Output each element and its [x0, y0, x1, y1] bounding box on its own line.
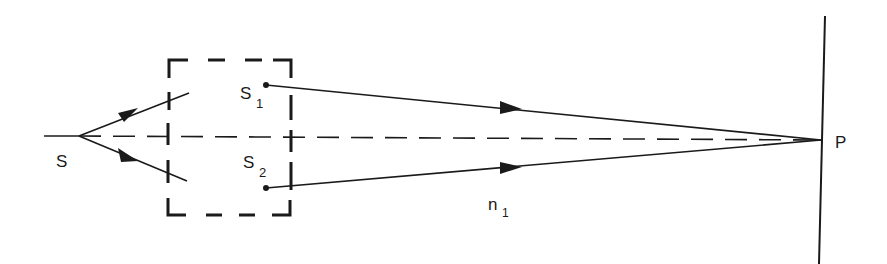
arrow-lower-source-icon	[118, 148, 138, 162]
interference-diagram: S S 1 S 2 n 1 P	[0, 0, 887, 264]
label-source: S	[56, 152, 67, 171]
label-medium-sub: 1	[502, 206, 509, 220]
optical-axis-dashed	[79, 136, 821, 140]
label-source-1: S	[240, 84, 251, 103]
label-source-2-sub: 2	[259, 165, 266, 180]
label-source-1-sub: 1	[256, 96, 263, 111]
label-medium: n	[488, 195, 497, 214]
arrow-s2-ray-icon	[500, 162, 522, 174]
arrow-s1-ray-icon	[500, 101, 522, 114]
ray-upper-from-source	[79, 93, 189, 136]
label-point-p: P	[835, 133, 846, 152]
label-source-2: S	[243, 153, 254, 172]
ray-s1-to-p	[266, 85, 821, 140]
label-source-1-main: S	[240, 84, 251, 103]
ray-s2-to-p	[266, 140, 821, 188]
label-source-2-main: S	[243, 153, 254, 172]
